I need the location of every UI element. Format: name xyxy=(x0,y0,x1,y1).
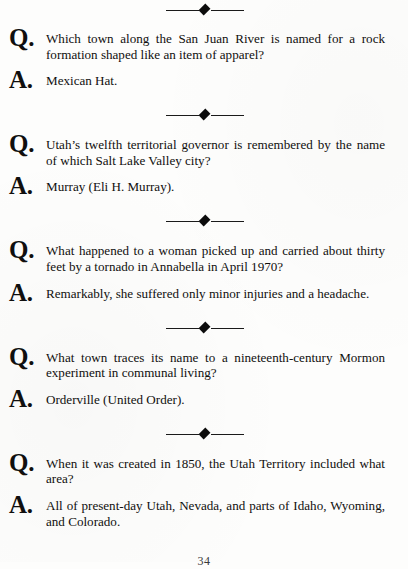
answer-block: A. Mexican Hat. xyxy=(0,73,408,93)
question-block: Q. What happened to a woman picked up an… xyxy=(0,243,408,274)
question-marker: Q. xyxy=(9,25,34,50)
section-divider xyxy=(0,322,408,335)
spacer xyxy=(0,412,408,428)
section-divider xyxy=(0,4,408,17)
spacer xyxy=(0,381,408,392)
answer-block: A. All of present-day Utah, Nevada, and … xyxy=(0,498,408,529)
answer-marker: A. xyxy=(9,280,33,305)
section-divider xyxy=(0,428,408,441)
divider-rule-left xyxy=(166,10,199,11)
section-divider xyxy=(0,215,408,228)
divider-rule-right xyxy=(211,10,244,11)
divider-rule-left xyxy=(166,221,199,222)
question-text: What town traces its name to a nineteent… xyxy=(46,350,385,381)
question-text: Which town along the San Juan River is n… xyxy=(46,31,385,62)
diamond-ornament-icon xyxy=(199,109,211,121)
answer-marker: A. xyxy=(9,386,33,411)
divider-rule-right xyxy=(211,221,244,222)
spacer xyxy=(0,62,408,73)
spacer xyxy=(0,275,408,286)
question-marker: Q. xyxy=(9,344,34,369)
divider-rule-right xyxy=(211,328,244,329)
question-marker: Q. xyxy=(9,131,34,156)
question-block: Q. Utah’s twelfth territorial governor i… xyxy=(0,137,408,168)
question-block: Q. What town traces its name to a ninete… xyxy=(0,350,408,381)
answer-marker: A. xyxy=(9,492,33,517)
diamond-ornament-icon xyxy=(199,4,211,16)
question-text: Utah’s twelfth territorial governor is r… xyxy=(46,137,385,168)
spacer xyxy=(0,199,408,215)
answer-marker: A. xyxy=(9,67,33,92)
answer-block: A. Remarkably, she suffered only minor i… xyxy=(0,286,408,306)
divider-rule-right xyxy=(211,115,244,116)
spacer xyxy=(0,93,408,109)
page-number: 34 xyxy=(0,554,408,569)
question-block: Q. Which town along the San Juan River i… xyxy=(0,31,408,62)
diamond-ornament-icon xyxy=(199,215,211,227)
question-marker: Q. xyxy=(9,450,34,475)
answer-text: Remarkably, she suffered only minor inju… xyxy=(46,286,385,302)
answer-block: A. Orderville (United Order). xyxy=(0,392,408,412)
question-text: When it was created in 1850, the Utah Te… xyxy=(46,456,385,487)
answer-text: All of present-day Utah, Nevada, and par… xyxy=(46,498,385,529)
diamond-ornament-icon xyxy=(199,427,211,439)
answer-text: Mexican Hat. xyxy=(46,73,385,89)
spacer xyxy=(0,168,408,179)
spacer xyxy=(0,17,408,31)
divider-rule-left xyxy=(166,328,199,329)
question-block: Q. When it was created in 1850, the Utah… xyxy=(0,456,408,487)
answer-text: Murray (Eli H. Murray). xyxy=(46,179,385,195)
divider-rule-right xyxy=(211,434,244,435)
spacer xyxy=(0,335,408,350)
spacer xyxy=(0,306,408,322)
answer-text: Orderville (United Order). xyxy=(46,392,385,408)
diamond-ornament-icon xyxy=(199,321,211,333)
question-marker: Q. xyxy=(9,237,34,262)
spacer xyxy=(0,441,408,456)
answer-block: A. Murray (Eli H. Murray). xyxy=(0,179,408,199)
spacer xyxy=(0,487,408,498)
answer-marker: A. xyxy=(9,173,33,198)
spacer xyxy=(0,228,408,243)
spacer xyxy=(0,122,408,137)
question-text: What happened to a woman picked up and c… xyxy=(46,243,385,274)
section-divider xyxy=(0,109,408,122)
divider-rule-left xyxy=(166,115,199,116)
divider-rule-left xyxy=(166,434,199,435)
